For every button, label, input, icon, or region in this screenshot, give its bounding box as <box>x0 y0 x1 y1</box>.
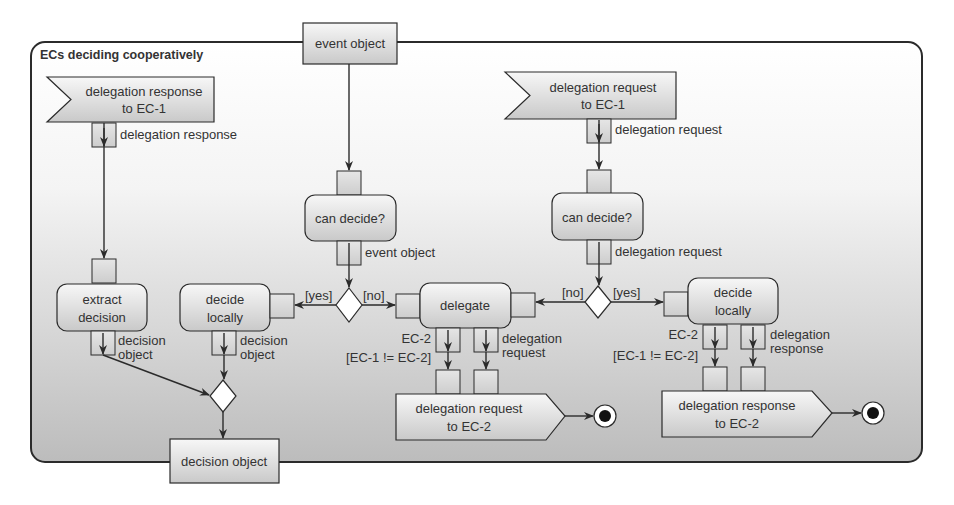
accept-request-line1: delegation request <box>550 80 657 95</box>
extract-line1: extract <box>82 292 121 307</box>
pin-label: decision <box>118 333 166 348</box>
pin-label: delegation response <box>120 127 237 142</box>
accept-response-line1: delegation response <box>85 84 202 99</box>
pin-label: delegation request <box>615 122 722 137</box>
guard-label: [EC-1 != EC-2] <box>346 350 431 365</box>
send-request-line1: delegation request <box>416 401 523 416</box>
guard-label: [EC-1 != EC-2] <box>613 348 698 363</box>
pin-label: decision <box>240 333 288 348</box>
guard-right-yes: [yes] <box>613 285 640 300</box>
pin-label: EC-2 <box>668 327 698 342</box>
decide-right-line2: locally <box>715 303 752 318</box>
send-signal-delegation-response: delegation response to EC-2 <box>662 391 832 437</box>
pin-label: delegation <box>502 331 562 346</box>
guard-right-no: [no] <box>562 285 584 300</box>
accept-request-line2: to EC-1 <box>581 97 625 112</box>
activity-final-node-2 <box>862 402 884 424</box>
decide-left-line1: decide <box>206 292 244 307</box>
activity-diagram: ECs deciding cooperatively event object … <box>0 0 954 505</box>
decide-right-line1: decide <box>714 285 752 300</box>
pin-label: request <box>502 345 546 360</box>
pin-label: object <box>118 347 153 362</box>
event-object-parameter: event object <box>303 23 397 64</box>
can-decide-left-label: can decide? <box>315 211 385 226</box>
activity-final-node-1 <box>594 405 616 427</box>
can-decide-right-label: can decide? <box>562 210 632 225</box>
accept-response-line2: to EC-1 <box>122 101 166 116</box>
pin-label: delegation <box>770 327 830 342</box>
send-request-line2: to EC-2 <box>447 419 491 434</box>
pin-label: response <box>770 341 823 356</box>
send-signal-delegation-request: delegation request to EC-2 <box>396 394 565 440</box>
decision-object-parameter: decision object <box>170 439 279 483</box>
decision-object-label: decision object <box>181 454 267 469</box>
send-response-line1: delegation response <box>678 398 795 413</box>
extract-line2: decision <box>78 310 126 325</box>
guard-left-no: [no] <box>363 288 385 303</box>
delegate-label: delegate <box>440 298 490 313</box>
decide-left-line2: locally <box>207 310 244 325</box>
pin-label: EC-2 <box>401 331 431 346</box>
pin-label: delegation request <box>615 244 722 259</box>
event-object-label: event object <box>315 36 385 51</box>
send-response-line2: to EC-2 <box>715 416 759 431</box>
guard-left-yes: [yes] <box>305 288 332 303</box>
frame-title: ECs deciding cooperatively <box>40 48 203 62</box>
pin-label: event object <box>365 245 435 260</box>
pin-label: object <box>240 347 275 362</box>
